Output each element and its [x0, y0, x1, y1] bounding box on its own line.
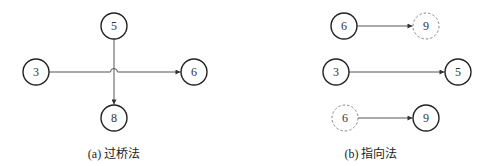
node-3-b-label: 3 [333, 65, 339, 79]
node-6-dashed-label: 6 [342, 111, 348, 125]
node-6-solid: 6 [331, 13, 357, 39]
node-5: 5 [101, 13, 127, 39]
edge-3-to-6-with-bridge [49, 69, 181, 72]
caption-b: (b) 指向法 [345, 146, 398, 161]
node-5-b-label: 5 [455, 65, 461, 79]
node-6: 6 [181, 59, 207, 85]
node-9-solid: 9 [413, 105, 439, 131]
caption-a: (a) 过桥法 [88, 147, 140, 161]
node-9-dashed-label: 9 [423, 19, 429, 33]
node-3-b: 3 [323, 59, 349, 85]
node-5-label: 5 [111, 19, 117, 33]
node-9-solid-label: 9 [423, 111, 429, 125]
network-diagram: 3 5 6 8 (a) 过桥法 6 9 3 [0, 0, 487, 166]
node-5-b: 5 [445, 59, 471, 85]
node-6-dashed: 6 [332, 105, 358, 131]
node-6-label: 6 [191, 65, 197, 79]
node-8-label: 8 [111, 111, 117, 125]
node-3: 3 [23, 59, 49, 85]
diagram-b-pointer-method: 6 9 3 5 6 9 (b) 指向法 [323, 13, 471, 161]
node-8: 8 [101, 105, 127, 131]
diagram-a-bridge-method: 3 5 6 8 (a) 过桥法 [23, 13, 207, 161]
node-3-label: 3 [33, 65, 39, 79]
node-6-solid-label: 6 [341, 19, 347, 33]
node-9-dashed: 9 [413, 13, 439, 39]
